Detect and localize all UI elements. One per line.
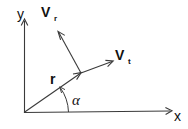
tangential-velocity-group [81,60,113,73]
tangential-velocity-line [81,62,112,73]
radial-velocity-label: V [41,5,50,19]
x-axis-label: x [174,109,181,123]
angle-alpha-group [60,87,69,112]
tangential-velocity-label: V [115,48,124,62]
radial-velocity-line [59,33,81,73]
vector-diagram-figure: y x r V r V t α [0,0,188,129]
radial-velocity-group [58,31,81,73]
position-vector-r-label: r [50,72,55,86]
tangential-velocity-subscript: t [128,58,131,66]
angle-alpha-label: α [72,93,80,108]
x-axis-line [24,111,170,113]
y-axis-label: y [17,7,24,21]
y-axis-group [21,19,28,113]
vector-diagram-canvas [0,0,188,129]
x-axis-group [24,107,172,114]
radial-velocity-subscript: r [54,15,57,23]
